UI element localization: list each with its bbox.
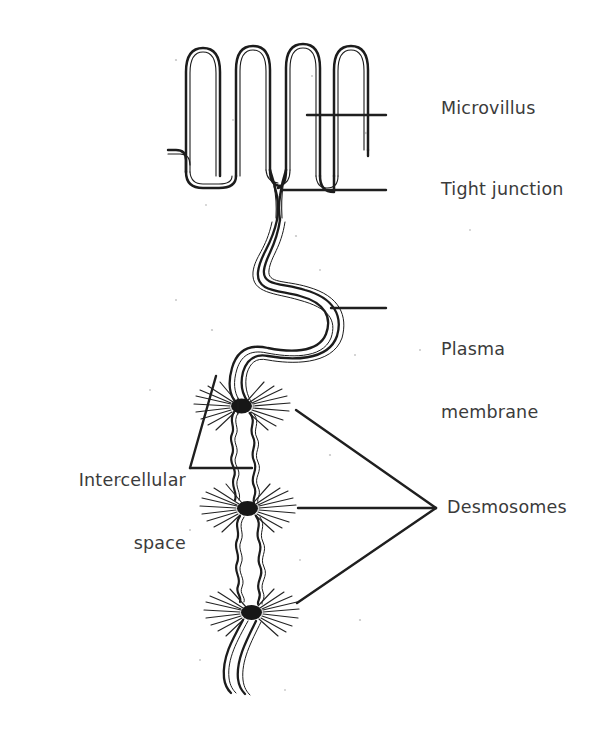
plasma-membrane-serpentine [230, 220, 344, 403]
label-plasma-membrane-line1: Plasma [441, 339, 538, 360]
label-intercellular-space-line1: Intercellular [36, 470, 186, 491]
microvilli-group [168, 44, 368, 192]
label-plasma-membrane: Plasma membrane [441, 297, 538, 465]
desmosome-leader-3 [297, 508, 436, 603]
intercellular-space-1 [231, 412, 260, 503]
microvillus-1 [186, 48, 220, 176]
microvillus-4 [334, 46, 368, 176]
label-tight-junction: Tight junction [441, 179, 564, 200]
desmosome-2 [200, 484, 296, 532]
label-plasma-membrane-line2: membrane [441, 402, 538, 423]
label-intercellular-space-line2: space [36, 533, 186, 554]
label-microvillus: Microvillus [441, 98, 535, 119]
tight-junction [270, 170, 286, 220]
label-desmosomes: Desmosomes [447, 497, 567, 518]
intercellular-space-2 [236, 516, 266, 604]
microvillus-3 [286, 44, 320, 176]
membrane-tail [224, 620, 261, 695]
intercellular-space-leader-2 [190, 376, 216, 468]
label-intercellular-space: Intercellular space [36, 428, 186, 596]
junctional-complex-figure: Microvillus Tight junction Plasma membra… [0, 0, 616, 738]
microvillus-2 [236, 46, 270, 176]
desmosome-leader-1 [296, 410, 436, 508]
